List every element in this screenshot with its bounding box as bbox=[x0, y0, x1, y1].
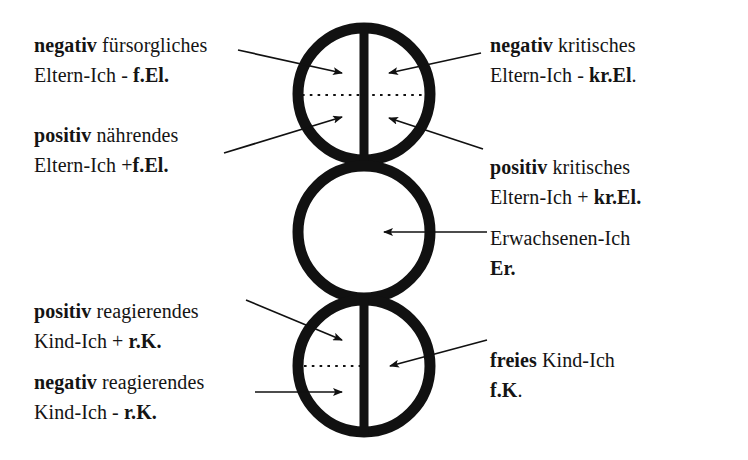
label-text: kritisches bbox=[547, 156, 630, 178]
label-line-2: Er. bbox=[490, 253, 630, 283]
label-emphasis: positiv bbox=[34, 300, 91, 322]
label-line-1: Erwachsenen-Ich bbox=[490, 223, 630, 253]
label-code: Er. bbox=[490, 257, 516, 279]
label-positiv-reagierendes-kind-ich: positiv reagierendes Kind-Ich + r.K. bbox=[34, 296, 199, 356]
label-freies-kind-ich: freies Kind-Ich f.K. bbox=[490, 345, 615, 405]
label-text: Erwachsenen-Ich bbox=[490, 227, 630, 249]
label-erwachsenen-ich: Erwachsenen-Ich Er. bbox=[490, 223, 630, 283]
label-text: reagierendes bbox=[91, 300, 198, 322]
label-text: nährendes bbox=[91, 124, 178, 146]
label-emphasis: freies bbox=[490, 349, 537, 371]
label-text: Kind-Ich bbox=[537, 349, 615, 371]
label-line-1: positiv kritisches bbox=[490, 152, 641, 182]
label-code: f.K bbox=[490, 379, 518, 401]
label-positiv-kritisches-eltern-ich: positiv kritisches Eltern-Ich + kr.El. bbox=[490, 152, 641, 212]
label-text: Eltern-Ich - bbox=[490, 64, 589, 86]
label-negativ-kritisches-eltern-ich: negativ kritisches Eltern-Ich - kr.El. bbox=[490, 30, 637, 90]
label-line-2: Kind-Ich - r.K. bbox=[34, 397, 204, 427]
diagram-page: negativ fürsorgliches Eltern-Ich - f.El.… bbox=[0, 0, 748, 460]
label-text: Kind-Ich + bbox=[34, 330, 129, 352]
label-emphasis: negativ bbox=[34, 371, 97, 393]
label-text: Eltern-Ich - bbox=[34, 64, 133, 86]
label-text: reagierendes bbox=[97, 371, 204, 393]
label-text: Kind-Ich - bbox=[34, 401, 124, 423]
label-line-1: negativ reagierendes bbox=[34, 367, 204, 397]
label-code: r.K. bbox=[129, 330, 162, 352]
label-line-2: Eltern-Ich + kr.El. bbox=[490, 182, 641, 212]
circle-kind-ich bbox=[298, 297, 430, 435]
label-text: Eltern-Ich + bbox=[34, 154, 133, 176]
label-text-tail: . bbox=[632, 64, 637, 86]
label-line-2: Eltern-Ich - f.El. bbox=[34, 60, 207, 90]
label-text: fürsorgliches bbox=[97, 34, 207, 56]
label-line-1: negativ kritisches bbox=[490, 30, 637, 60]
label-positiv-naehrendes-eltern-ich: positiv nährendes Eltern-Ich +f.El. bbox=[34, 120, 178, 180]
label-text-tail: . bbox=[518, 379, 523, 401]
label-code: kr.El bbox=[589, 64, 632, 86]
label-code: f.El. bbox=[133, 64, 169, 86]
circle-eltern-ich bbox=[298, 23, 430, 165]
label-negativ-fuersorgliches-eltern-ich: negativ fürsorgliches Eltern-Ich - f.El. bbox=[34, 30, 207, 90]
label-text: kritisches bbox=[553, 34, 636, 56]
label-text: Eltern-Ich + bbox=[490, 186, 594, 208]
label-emphasis: positiv bbox=[34, 124, 91, 146]
label-negativ-reagierendes-kind-ich: negativ reagierendes Kind-Ich - r.K. bbox=[34, 367, 204, 427]
label-line-2: Kind-Ich + r.K. bbox=[34, 326, 199, 356]
label-code: kr.El. bbox=[594, 186, 642, 208]
label-line-2: Eltern-Ich - kr.El. bbox=[490, 60, 637, 90]
label-line-1: positiv nährendes bbox=[34, 120, 178, 150]
label-line-2: Eltern-Ich +f.El. bbox=[34, 150, 178, 180]
label-emphasis: positiv bbox=[490, 156, 547, 178]
label-line-1: negativ fürsorgliches bbox=[34, 30, 207, 60]
label-code: f.El. bbox=[133, 154, 169, 176]
label-emphasis: negativ bbox=[490, 34, 553, 56]
label-line-1: freies Kind-Ich bbox=[490, 345, 615, 375]
label-code: r.K. bbox=[124, 401, 157, 423]
label-line-1: positiv reagierendes bbox=[34, 296, 199, 326]
label-emphasis: negativ bbox=[34, 34, 97, 56]
label-line-2: f.K. bbox=[490, 375, 615, 405]
